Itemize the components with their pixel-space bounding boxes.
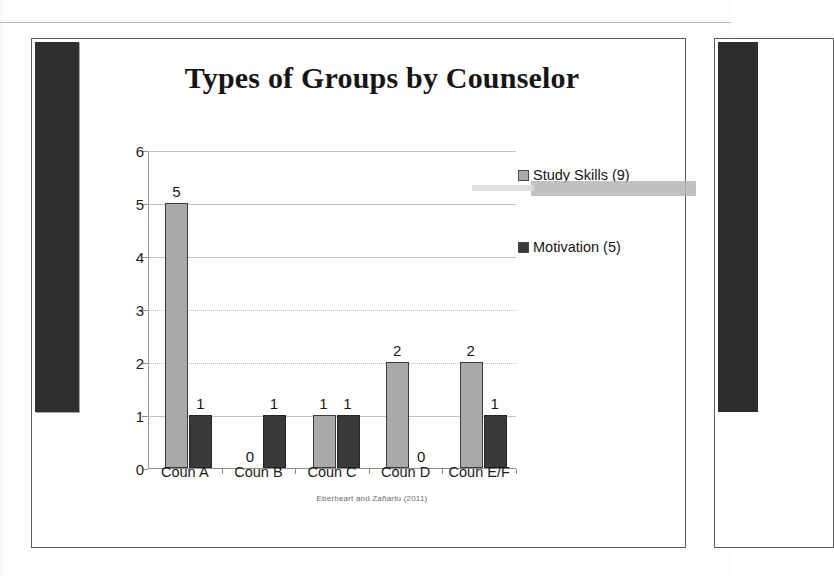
- bar: [165, 203, 188, 468]
- source-citation: Eberheart and Zañartu (2011): [72, 494, 672, 503]
- bar-group: 01: [239, 150, 286, 468]
- legend-swatch-study-skills: [518, 170, 529, 181]
- y-axis-tick-label: 3: [114, 303, 144, 318]
- y-axis-tick-label: 5: [114, 197, 144, 212]
- legend-swatch-motivation: [518, 242, 529, 253]
- bar-value-label: 5: [162, 184, 190, 199]
- scan-artifact-smear-tail: [472, 185, 534, 191]
- bar: [337, 415, 360, 468]
- bar-group: 11: [313, 150, 360, 468]
- bar: [263, 415, 286, 468]
- bar-value-label: 1: [481, 396, 509, 411]
- x-axis-category-label: Coun E/F: [434, 464, 524, 480]
- bar: [313, 415, 336, 468]
- bar-group: 21: [460, 150, 507, 468]
- y-axis-tick-label: 6: [114, 144, 144, 159]
- bar: [386, 362, 409, 468]
- bar: [484, 415, 507, 468]
- y-axis-tick-label: 1: [114, 409, 144, 424]
- slide-adjacent: [714, 38, 834, 548]
- slide-adjacent-sidebar-bar: [718, 42, 758, 412]
- legend-label: Motivation (5): [533, 239, 621, 255]
- page-top-rule: [0, 22, 731, 23]
- bar-value-label: 2: [457, 343, 485, 358]
- bar-value-label: 1: [186, 396, 214, 411]
- bar-value-label: 0: [407, 449, 435, 464]
- bar-value-label: 1: [334, 396, 362, 411]
- bar-group: 51: [165, 150, 212, 468]
- y-axis-tick-label: 4: [114, 250, 144, 265]
- slide-main: Types of Groups by Counselor 01234565101…: [31, 38, 686, 548]
- legend-item: Motivation (5): [518, 239, 688, 255]
- bar: [460, 362, 483, 468]
- bar: [189, 415, 212, 468]
- page-title: Types of Groups by Counselor: [92, 61, 672, 95]
- bar-group: 20: [386, 150, 433, 468]
- bar-value-label: 1: [260, 396, 288, 411]
- plot-area: 01234565101112021: [148, 151, 516, 469]
- y-axis-tick-label: 2: [114, 356, 144, 371]
- scan-artifact-smear: [531, 181, 696, 196]
- bar-value-label: 0: [236, 449, 264, 464]
- bar-value-label: 2: [383, 343, 411, 358]
